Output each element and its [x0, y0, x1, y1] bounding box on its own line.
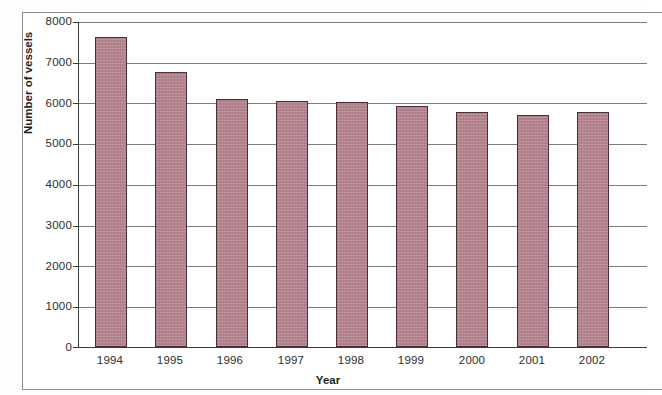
- y-tick-mark-1000: [73, 307, 79, 308]
- y-tick-label-3000: 3000: [2, 219, 72, 231]
- y-tick-mark-0: [73, 347, 79, 348]
- bar-2002: [577, 112, 609, 347]
- x-tick-label-2001: 2001: [502, 354, 562, 366]
- x-tick-label-1995: 1995: [140, 354, 200, 366]
- bar-2000: [456, 112, 488, 347]
- bar-1996: [216, 99, 248, 347]
- bar-1994: [95, 37, 127, 347]
- bar-1995: [155, 72, 187, 347]
- y-tick-label-2000: 2000: [2, 260, 72, 272]
- y-tick-label-6000: 6000: [2, 97, 72, 109]
- bar-2001: [517, 115, 549, 347]
- y-tick-mark-3000: [73, 226, 79, 227]
- x-tick-label-2002: 2002: [562, 354, 622, 366]
- plot-area: [78, 22, 647, 348]
- bar-1998: [336, 102, 368, 347]
- gridline-8000: [79, 22, 647, 23]
- x-tick-label-1994: 1994: [80, 354, 140, 366]
- x-tick-label-1998: 1998: [321, 354, 381, 366]
- y-tick-label-5000: 5000: [2, 137, 72, 149]
- y-tick-label-4000: 4000: [2, 178, 72, 190]
- y-tick-label-0: 0: [2, 341, 72, 353]
- y-tick-label-1000: 1000: [2, 300, 72, 312]
- y-tick-mark-5000: [73, 144, 79, 145]
- x-axis-title: Year: [78, 374, 578, 386]
- bar-1997: [276, 101, 308, 347]
- y-tick-mark-4000: [73, 185, 79, 186]
- y-tick-label-8000: 8000: [2, 15, 72, 27]
- y-tick-mark-2000: [73, 266, 79, 267]
- y-tick-mark-6000: [73, 103, 79, 104]
- x-tick-label-1996: 1996: [200, 354, 260, 366]
- x-tick-label-1997: 1997: [261, 354, 321, 366]
- bar-1999: [396, 106, 428, 347]
- y-tick-label-7000: 7000: [2, 56, 72, 68]
- x-tick-label-1999: 1999: [381, 354, 441, 366]
- y-tick-mark-8000: [73, 22, 79, 23]
- x-tick-label-2000: 2000: [442, 354, 502, 366]
- y-tick-mark-7000: [73, 63, 79, 64]
- gridline-7000: [79, 63, 647, 64]
